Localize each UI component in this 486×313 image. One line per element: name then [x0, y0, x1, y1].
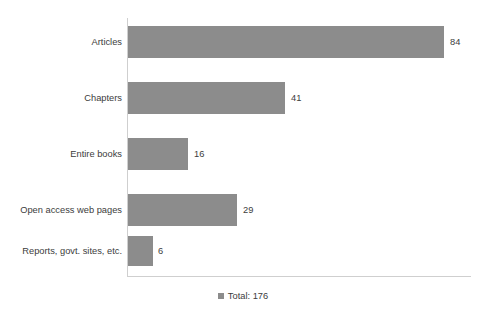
- bar-chart: Articles 84 Chapters 41 Entire books 16 …: [0, 0, 486, 313]
- category-label-articles: Articles: [0, 26, 122, 58]
- category-label-reports: Reports, govt. sites, etc.: [0, 236, 122, 266]
- bar-row-entire-books: Entire books 16: [0, 138, 486, 170]
- bar-articles[interactable]: [128, 26, 444, 58]
- bar-value-open-access-web-pages: 29: [243, 194, 253, 226]
- bar-value-reports: 6: [158, 236, 163, 266]
- legend-label-total: Total: 176: [228, 291, 268, 301]
- bar-row-open-access-web-pages: Open access web pages 29: [0, 194, 486, 226]
- bar-row-chapters: Chapters 41: [0, 82, 486, 114]
- bar-row-reports: Reports, govt. sites, etc. 6: [0, 236, 486, 266]
- bar-chapters[interactable]: [128, 82, 285, 114]
- bar-open-access-web-pages[interactable]: [128, 194, 237, 226]
- bar-value-chapters: 41: [291, 82, 301, 114]
- bar-value-entire-books: 16: [194, 138, 204, 170]
- category-label-entire-books: Entire books: [0, 138, 122, 170]
- bar-reports[interactable]: [128, 236, 153, 266]
- bar-value-articles: 84: [450, 26, 460, 58]
- category-label-chapters: Chapters: [0, 82, 122, 114]
- bar-entire-books[interactable]: [128, 138, 188, 170]
- chart-legend: Total: 176: [0, 288, 486, 304]
- category-label-open-access-web-pages: Open access web pages: [0, 194, 122, 226]
- bar-row-articles: Articles 84: [0, 26, 486, 58]
- legend-swatch-icon: [218, 293, 224, 299]
